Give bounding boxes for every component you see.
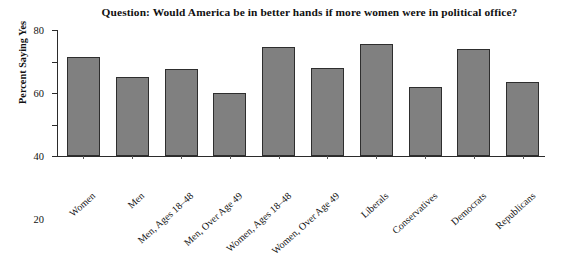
x-tick-label: Conservatives (390, 190, 439, 236)
bar (262, 47, 295, 156)
x-tick-mark (523, 156, 524, 159)
y-axis-line (57, 30, 58, 157)
bar (116, 77, 149, 156)
y-tick-label: 60 (34, 88, 45, 99)
x-tick-mark (83, 156, 84, 159)
y-axis-title: Percent Saying Yes (17, 0, 28, 128)
x-tick-mark (474, 156, 475, 159)
plot-area: 020406080 WomenMenMen, Ages 18–48Men, Ov… (57, 30, 545, 156)
bar (311, 68, 344, 156)
x-tick-label: Men (126, 190, 147, 210)
bar (457, 49, 490, 156)
chart-title: Question: Would America be in better han… (62, 6, 557, 18)
x-tick-label: Democrats (449, 190, 489, 227)
x-tick-mark (132, 156, 133, 159)
x-tick-mark (376, 156, 377, 159)
y-tick-label: 80 (34, 25, 45, 36)
y-tick-mark: 40 (52, 93, 57, 94)
x-tick-label: Liberals (359, 190, 391, 220)
bar (165, 69, 198, 156)
x-tick-mark (425, 156, 426, 159)
bar-chart-figure: Question: Would America be in better han… (0, 0, 562, 258)
x-tick-mark (279, 156, 280, 159)
y-tick-mark: 20 (52, 125, 57, 126)
x-tick-mark (181, 156, 182, 159)
x-tick-mark (230, 156, 231, 159)
bar (409, 87, 442, 156)
y-tick-label: 20 (34, 214, 45, 225)
x-tick-mark (327, 156, 328, 159)
bar (506, 82, 539, 156)
x-tick-label: Women (67, 190, 97, 219)
bar (360, 44, 393, 156)
y-tick-mark: 0 (52, 156, 57, 157)
bar (213, 93, 246, 156)
y-tick-mark: 60 (52, 62, 57, 63)
y-tick-label: 40 (34, 151, 45, 162)
x-axis-line (57, 156, 545, 157)
bar (67, 57, 100, 156)
x-tick-label: Republicans (493, 190, 537, 231)
y-tick-mark: 80 (52, 30, 57, 31)
